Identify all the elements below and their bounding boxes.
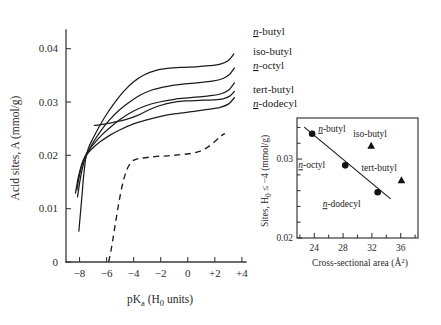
main-x-tick-label: −2 (155, 267, 167, 279)
inset-marker-n-butyl (309, 130, 316, 137)
main-y-tick-label: 0 (53, 256, 59, 268)
main-x-tick-labels: −8−6−4−20+2+4 (74, 267, 249, 279)
main-x-ticks (80, 257, 242, 262)
main-x-tick-label: 0 (185, 267, 191, 279)
inset-label-rest: -octyl (303, 160, 326, 170)
main-x-tick-label: −4 (128, 267, 140, 279)
main-y-tick-label: 0.04 (39, 42, 59, 54)
main-plot-curves (75, 54, 234, 262)
main-x-tick-label: +2 (209, 267, 221, 279)
inset-point-label-n-octyl: n-octyl (298, 160, 325, 170)
inset-x-tick-label: 36 (396, 243, 406, 253)
inset-x-title-pre: Cross-sectional area (Å (312, 257, 401, 269)
inset-y-axis-title: Sites, H0 ≤ −4 (mmol/g) (260, 135, 273, 227)
inset-x-tick-label: 32 (367, 243, 377, 253)
inset-plot: 0.020.03 24283236 Sites, H0 ≤ −4 (mmol/g… (260, 118, 418, 269)
curve-blank-dashed (109, 133, 225, 262)
inset-x-axis-title: Cross-sectional area (Å2) (312, 257, 408, 270)
x-title-end: units) (164, 293, 193, 306)
inset-point-label-tert-butyl: tert-butyl (361, 163, 397, 173)
main-y-tick-labels: 00.010.020.030.04 (39, 42, 59, 267)
inset-y-title-post: ≤ −4 (mmol/g) (260, 135, 271, 193)
inset-label-rest: -dodecyl (327, 199, 361, 209)
curve-n-butyl (79, 54, 234, 231)
inset-y-tick-labels: 0.020.03 (276, 154, 293, 243)
inset-point-label-iso-butyl: iso-butyl (353, 129, 387, 139)
series-label-n-dodecyl: n-dodecyl (253, 97, 297, 109)
series-label-tert-butyl: tert-butyl (253, 83, 294, 95)
series-label-n-octyl-rest: -octyl (259, 59, 285, 71)
inset-x-title-post: ) (405, 258, 408, 269)
x-title-post: (H (145, 293, 160, 306)
main-x-tick-label: −6 (101, 267, 113, 279)
main-y-tick-label: 0.03 (39, 96, 59, 108)
main-x-tick-label: −8 (74, 267, 86, 279)
main-y-ticks (66, 49, 71, 262)
inset-y-tick-label: 0.02 (276, 233, 293, 243)
figure-canvas: 00.010.020.030.04 −8−6−4−20+2+4 Acid sit… (0, 0, 441, 325)
figure-container: 00.010.020.030.04 −8−6−4−20+2+4 Acid sit… (0, 0, 441, 325)
inset-x-tick-labels: 24283236 (310, 243, 406, 253)
curve-iso-butyl (78, 68, 235, 197)
series-label-n-butyl: n-butyl (253, 25, 285, 37)
series-label-n-butyl-rest: -butyl (259, 25, 285, 37)
inset-label-rest: -butyl (323, 124, 346, 134)
inset-marker-n-dodecyl (374, 189, 381, 196)
main-x-tick-label: +4 (236, 267, 248, 279)
inset-point-label-n-butyl: n-butyl (318, 124, 346, 134)
main-series-labels: n-butyl iso-butyl n-octyl tert-butyl n-d… (253, 25, 297, 109)
series-label-n-dodecyl-rest: -dodecyl (259, 97, 297, 109)
curve-n-octyl (77, 83, 235, 190)
main-y-tick-label: 0.02 (39, 149, 58, 161)
series-label-n-octyl: n-octyl (253, 59, 284, 71)
series-label-iso-butyl: iso-butyl (253, 45, 292, 57)
inset-x-tick-label: 28 (338, 243, 348, 253)
main-x-axis-title: pKa (H0 units) (127, 293, 193, 308)
inset-point-label-n-dodecyl: n-dodecyl (323, 199, 361, 209)
inset-y-title-pre: Sites, H (260, 197, 270, 227)
inset-y-tick-label: 0.03 (276, 154, 293, 164)
x-title-pre: pK (127, 293, 142, 306)
main-plot-axes: 00.010.020.030.04 −8−6−4−20+2+4 (39, 30, 248, 279)
inset-marker-n-octyl (342, 162, 349, 169)
inset-x-tick-label: 24 (310, 243, 320, 253)
main-y-axis-title: Acid sites, A (mmol/g) (9, 95, 22, 200)
curve-n-dodecyl (75, 98, 234, 193)
main-y-tick-label: 0.01 (39, 202, 58, 214)
